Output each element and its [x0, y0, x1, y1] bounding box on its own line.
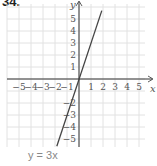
graph: xy−5−4−3−2−11234554321−2−3−4−5: [0, 0, 157, 166]
y-tick-label: 1: [70, 62, 76, 72]
y-tick-label: 3: [70, 38, 76, 48]
y-tick-label: 5: [70, 14, 76, 24]
y-axis-label: y: [69, 0, 76, 10]
equation-caption: y = 3x: [28, 149, 58, 161]
x-tick-label: 3: [112, 82, 118, 92]
y-tick-label: 2: [70, 50, 76, 60]
x-tick-label: 4: [124, 82, 130, 92]
x-tick-label: 5: [136, 82, 142, 92]
y-tick-label: 4: [70, 26, 76, 36]
x-tick-label: 1: [88, 82, 94, 92]
x-tick-label: 2: [100, 82, 106, 92]
x-tick-label: −1: [60, 82, 73, 92]
x-axis-label: x: [150, 83, 156, 94]
y-tick-label: −5: [63, 134, 77, 144]
y-tick-label: −3: [63, 110, 77, 120]
